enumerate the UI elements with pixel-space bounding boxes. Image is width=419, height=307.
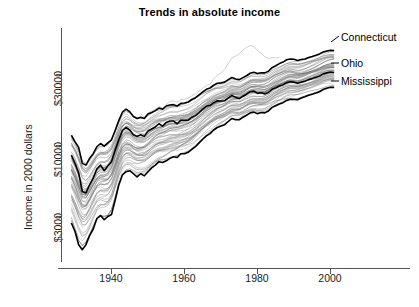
- leader-line-connecticut: [331, 36, 339, 42]
- gray-series-layer: [71, 51, 334, 245]
- series-line: [71, 78, 334, 195]
- series-line: [71, 81, 334, 235]
- series-line: [71, 77, 334, 241]
- series-line: [71, 79, 334, 208]
- series-line: [71, 58, 334, 190]
- chart-figure: Trends in absolute income Income in 2000…: [0, 0, 419, 307]
- series-line: [71, 64, 334, 198]
- plot-area: [0, 0, 419, 307]
